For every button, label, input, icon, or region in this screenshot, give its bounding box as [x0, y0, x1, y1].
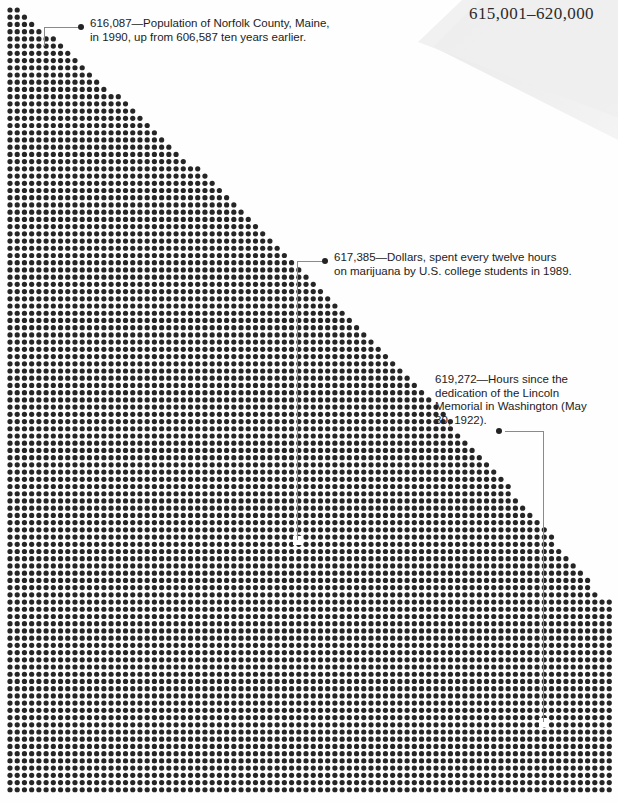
leader-line-1-vertical	[44, 27, 45, 46]
callout-2-text: 617,385—Dollars, spent every twelve hour…	[334, 251, 572, 278]
page-range-header: 615,001–620,000	[469, 4, 594, 24]
page-root: 615,001–620,000 616,087—Population of No…	[0, 0, 618, 803]
callout-3-text: 619,272—Hours since the dedication of th…	[435, 373, 603, 427]
leader-line-2-horizontal	[297, 261, 322, 262]
callout-1-bullet-icon	[78, 24, 84, 30]
leader-line-3-vertical	[543, 431, 544, 722]
leader-line-2-vertical	[297, 261, 298, 540]
callout-2-bullet-icon	[322, 258, 328, 264]
callout-1-text: 616,087—Population of Norfolk County, Ma…	[90, 17, 330, 44]
callout-3-bullet-icon	[496, 428, 502, 434]
leader-line-3-horizontal	[505, 431, 543, 432]
leader-line-1-horizontal	[44, 27, 78, 28]
